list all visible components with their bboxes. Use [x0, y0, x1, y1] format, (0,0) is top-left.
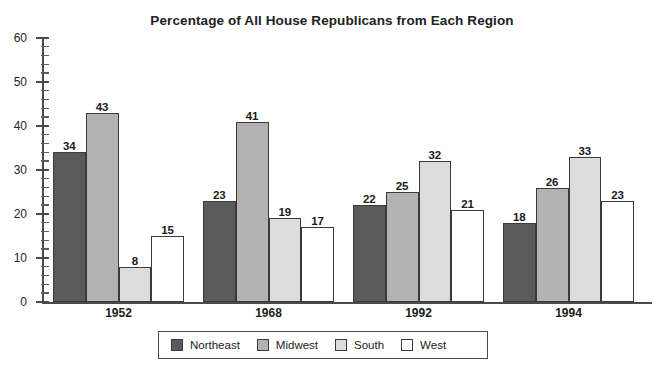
y-tick-minor [41, 204, 49, 205]
bar-value-label: 23 [611, 189, 624, 201]
bar-value-label: 18 [513, 211, 526, 223]
bar-group-1952: 34438151952 [53, 38, 184, 302]
legend-item-south[interactable]: South [335, 339, 384, 351]
y-tick-minor [41, 266, 49, 267]
bar-midwest-1992[interactable]: 25 [386, 192, 419, 302]
y-tick-label: 10 [14, 251, 27, 265]
y-tick-minor [41, 178, 49, 179]
y-tick-minor [41, 116, 49, 117]
y-tick-major [36, 169, 49, 171]
y-tick-minor [41, 240, 49, 241]
y-tick-minor [41, 108, 49, 109]
legend-swatch-icon [401, 339, 413, 351]
bar-value-label: 43 [96, 101, 109, 113]
legend-item-west[interactable]: West [401, 339, 446, 351]
legend-swatch-icon [257, 339, 269, 351]
bar-midwest-1994[interactable]: 26 [536, 188, 569, 302]
bar-value-label: 19 [278, 206, 291, 218]
bar-value-label: 22 [363, 193, 376, 205]
y-tick-minor [41, 72, 49, 73]
y-tick-minor [41, 64, 49, 65]
chart-legend: NortheastMidwestSouthWest [158, 331, 488, 359]
y-tick-label: 0 [20, 295, 27, 309]
legend-item-northeast[interactable]: Northeast [171, 339, 240, 351]
y-tick-major [36, 257, 49, 259]
bar-value-label: 23 [213, 189, 226, 201]
bar-group-1994: 182633231994 [503, 38, 634, 302]
bar-value-label: 17 [311, 215, 324, 227]
y-tick-major [36, 125, 49, 127]
y-tick-minor [41, 284, 49, 285]
y-tick-minor [41, 222, 49, 223]
y-tick-label: 40 [14, 119, 27, 133]
legend-label: South [354, 339, 384, 351]
bar-west-1952[interactable]: 15 [151, 236, 184, 302]
y-tick-minor [41, 187, 49, 188]
bar-west-1992[interactable]: 21 [451, 210, 484, 302]
x-axis-label-1994: 1994 [555, 306, 582, 320]
y-tick-label: 20 [14, 207, 27, 221]
y-tick-major [36, 213, 49, 215]
x-axis-label-1952: 1952 [105, 306, 132, 320]
y-tick-major [36, 81, 49, 83]
y-tick-minor [41, 292, 49, 293]
bar-value-label: 25 [396, 180, 409, 192]
bar-south-1994[interactable]: 33 [569, 157, 602, 302]
x-axis-label-1992: 1992 [405, 306, 432, 320]
y-tick-minor [41, 143, 49, 144]
y-tick-label: 50 [14, 75, 27, 89]
bar-south-1992[interactable]: 32 [419, 161, 452, 302]
legend-swatch-icon [335, 339, 347, 351]
chart-title: Percentage of All House Republicans from… [0, 13, 664, 28]
bar-value-label: 26 [546, 176, 559, 188]
x-axis-label-1968: 1968 [255, 306, 282, 320]
y-tick-major [36, 37, 49, 39]
bar-south-1952[interactable]: 8 [119, 267, 152, 302]
bar-west-1994[interactable]: 23 [601, 201, 634, 302]
legend-label: Midwest [276, 339, 318, 351]
bar-northeast-1994[interactable]: 18 [503, 223, 536, 302]
bar-northeast-1968[interactable]: 23 [203, 201, 236, 302]
y-tick-major [36, 301, 49, 303]
bar-group-1992: 222532211992 [353, 38, 484, 302]
y-tick-minor [41, 231, 49, 232]
bar-value-label: 15 [161, 224, 174, 236]
bar-south-1968[interactable]: 19 [269, 218, 302, 302]
bar-value-label: 34 [63, 140, 76, 152]
legend-label: Northeast [190, 339, 240, 351]
y-tick-minor [41, 275, 49, 276]
y-tick-label: 30 [14, 163, 27, 177]
bar-midwest-1952[interactable]: 43 [86, 113, 119, 302]
y-tick-minor [41, 99, 49, 100]
y-tick-minor [41, 152, 49, 153]
y-tick-minor [41, 134, 49, 135]
legend-label: West [420, 339, 446, 351]
bar-midwest-1968[interactable]: 41 [236, 122, 269, 302]
bar-chart: Percentage of All House Republicans from… [0, 0, 664, 380]
plot-area: 0102030405060 34438151952234119171968222… [42, 38, 652, 302]
legend-swatch-icon [171, 339, 183, 351]
y-tick-minor [41, 90, 49, 91]
y-tick-minor [41, 46, 49, 47]
y-tick-minor [41, 55, 49, 56]
bar-northeast-1992[interactable]: 22 [353, 205, 386, 302]
bar-group-1968: 234119171968 [203, 38, 334, 302]
bar-value-label: 8 [132, 255, 138, 267]
bar-value-label: 41 [246, 110, 259, 122]
x-axis-line [42, 302, 652, 304]
bar-value-label: 33 [578, 145, 591, 157]
y-tick-minor [41, 248, 49, 249]
bar-value-label: 21 [461, 198, 474, 210]
bar-value-label: 32 [428, 149, 441, 161]
legend-item-midwest[interactable]: Midwest [257, 339, 318, 351]
y-tick-minor [41, 196, 49, 197]
bar-west-1968[interactable]: 17 [301, 227, 334, 302]
bar-northeast-1952[interactable]: 34 [53, 152, 86, 302]
y-tick-label: 60 [14, 31, 27, 45]
y-tick-minor [41, 160, 49, 161]
